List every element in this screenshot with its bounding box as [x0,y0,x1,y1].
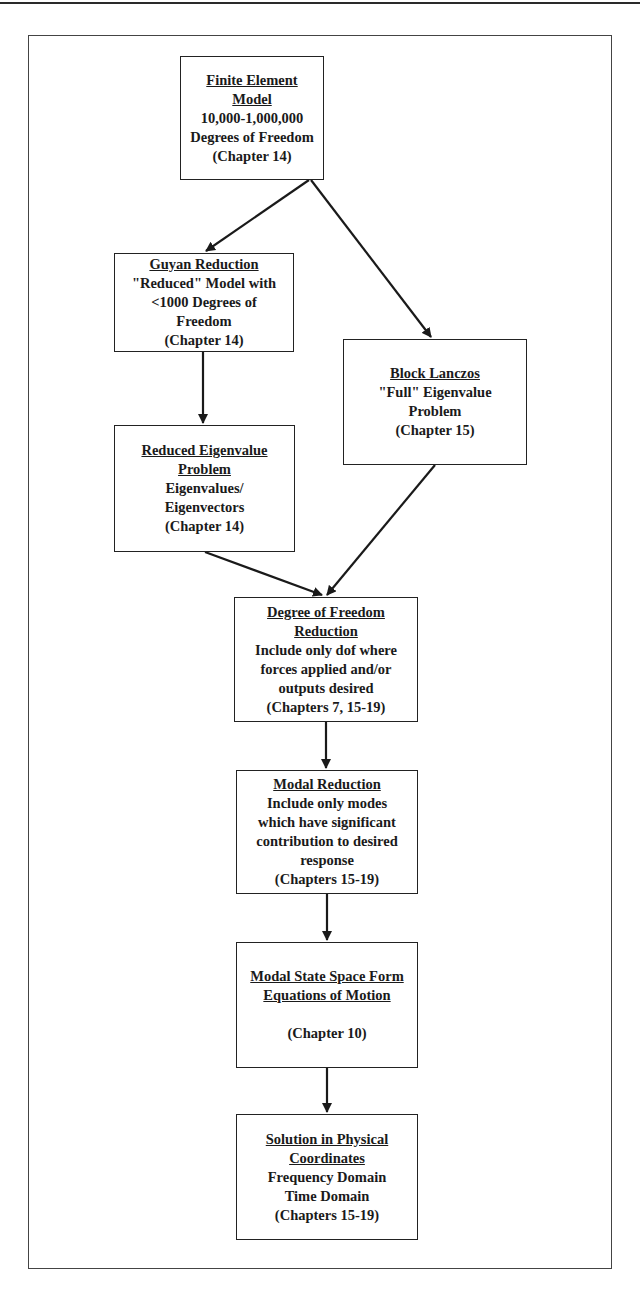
node-text: (Chapters 7, 15-19) [267,698,386,717]
node-title: Reduced Eigenvalue [141,441,267,460]
node-text: <1000 Degrees of [151,293,256,312]
node-title: Solution in Physical [266,1130,388,1149]
node-text: Time Domain [285,1187,370,1206]
node-title: Degree of Freedom [267,603,385,622]
node-text: Freedom [176,312,231,331]
node-title: Block Lanczos [390,364,480,383]
node-title: Finite Element Model [185,71,319,109]
node-title: Modal Reduction [273,775,381,794]
node-text: outputs desired [278,679,373,698]
node-text: Include only modes [267,794,387,813]
node-text: which have significant [258,813,396,832]
node-title: Problem [178,460,231,479]
page-top-rule [0,2,640,4]
node-text: (Chapter 10) [287,1024,366,1043]
node-modal-state-space: Modal State Space Form Equations of Moti… [236,942,418,1068]
node-text: response [300,851,354,870]
node-text: "Full" Eigenvalue [378,383,491,402]
node-text: Problem [409,402,462,421]
node-text: (Chapter 15) [395,421,474,440]
node-solution-physical-coordinates: Solution in Physical Coordinates Frequen… [236,1114,418,1240]
node-title: Guyan Reduction [149,255,258,274]
node-modal-reduction: Modal Reduction Include only modes which… [236,770,418,894]
node-guyan-reduction: Guyan Reduction "Reduced" Model with <10… [114,253,294,352]
node-text: (Chapters 15-19) [275,870,379,889]
node-text: contribution to desired [256,832,398,851]
node-title: Modal State Space Form [250,967,403,986]
node-reduced-eigenvalue-problem: Reduced Eigenvalue Problem Eigenvalues/ … [114,425,295,552]
node-title: Coordinates [289,1149,365,1168]
node-text: 10,000-1,000,000 [201,109,304,128]
node-text: Eigenvalues/ [165,479,243,498]
node-text: Eigenvectors [165,498,245,517]
node-text: (Chapters 15-19) [275,1206,379,1225]
node-title: Equations of Motion [263,986,390,1005]
node-title: Reduction [294,622,358,641]
node-text: forces applied and/or [260,660,391,679]
node-block-lanczos: Block Lanczos "Full" Eigenvalue Problem … [343,339,527,465]
node-dof-reduction: Degree of Freedom Reduction Include only… [234,597,418,722]
node-text: "Reduced" Model with [132,274,276,293]
node-text: (Chapter 14) [164,331,243,350]
node-text: Degrees of Freedom [190,128,313,147]
node-text: Frequency Domain [268,1168,387,1187]
node-text: (Chapter 14) [212,147,291,166]
node-text: (Chapter 14) [165,517,244,536]
node-finite-element-model: Finite Element Model 10,000-1,000,000 De… [180,56,324,180]
node-text: Include only dof where [255,641,397,660]
